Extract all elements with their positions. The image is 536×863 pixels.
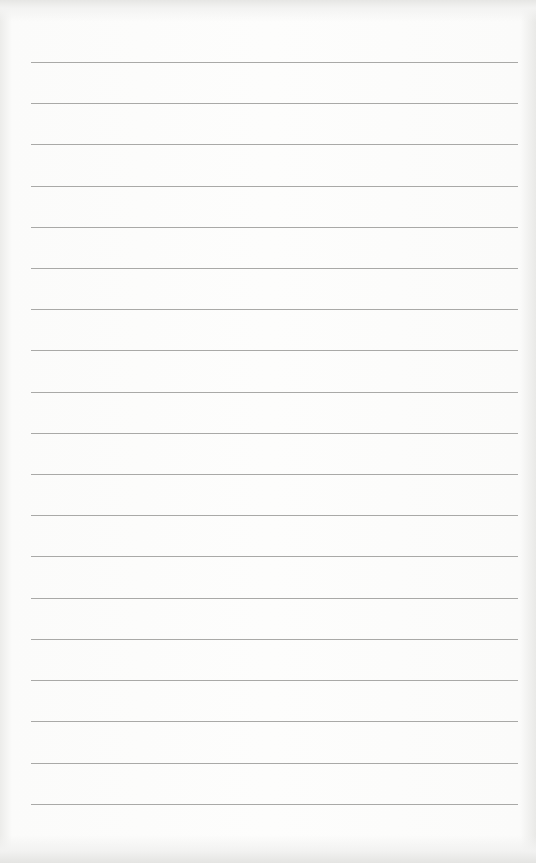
ruled-line (31, 556, 518, 557)
ruled-line (31, 392, 518, 393)
ruled-line (31, 144, 518, 145)
bottom-edge-shadow (0, 835, 536, 863)
ruled-line (31, 186, 518, 187)
ruled-line (31, 639, 518, 640)
top-edge-shadow (0, 0, 536, 22)
ruled-line (31, 804, 518, 805)
ruled-line (31, 515, 518, 516)
ruled-line (31, 227, 518, 228)
ruled-line (31, 474, 518, 475)
ruled-line (31, 721, 518, 722)
ruled-line (31, 268, 518, 269)
ruled-line (31, 680, 518, 681)
lined-paper-sheet (0, 0, 536, 863)
ruled-line (31, 433, 518, 434)
ruled-line (31, 309, 518, 310)
ruled-line (31, 598, 518, 599)
ruled-line (31, 763, 518, 764)
ruled-line (31, 103, 518, 104)
ruled-line (31, 62, 518, 63)
ruled-line (31, 350, 518, 351)
